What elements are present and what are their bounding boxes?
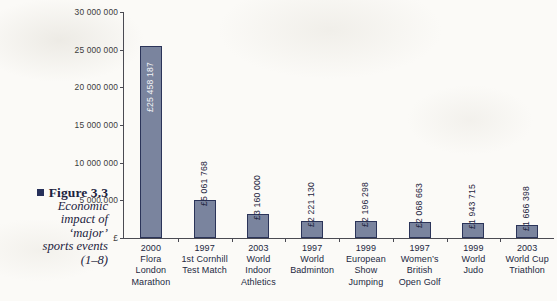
bar-value-label: £25 458 187 xyxy=(145,62,155,112)
y-tick-mark xyxy=(120,238,124,239)
category-name-line: Athletics xyxy=(232,277,286,288)
category-year: 1997 xyxy=(285,243,339,254)
bar-value-label: £2 196 298 xyxy=(360,182,370,227)
category-name-line: London xyxy=(124,265,178,276)
x-category-label: 1997WorldBadminton xyxy=(285,243,339,277)
category-name-line: Test Match xyxy=(178,265,232,276)
x-tick-mark xyxy=(339,238,340,242)
y-tick-mark xyxy=(120,87,124,88)
y-tick-label: £ xyxy=(113,233,118,243)
x-category-label: 1999WorldJudo xyxy=(447,243,501,277)
y-tick-label: 20 000 000 xyxy=(75,82,118,92)
category-year: 1999 xyxy=(447,243,501,254)
y-tick-label: 25 000 000 xyxy=(75,45,118,55)
y-tick-label: 15 000 000 xyxy=(75,120,118,130)
category-name-line: World xyxy=(447,254,501,265)
y-tick-label: 5 000 000 xyxy=(79,195,118,205)
category-name-line: Judo xyxy=(447,265,501,276)
category-name-line: Indoor xyxy=(232,265,286,276)
category-year: 1997 xyxy=(178,243,232,254)
x-category-label: 1997Women’sBritishOpen Golf xyxy=(393,243,447,288)
category-year: 2003 xyxy=(232,243,286,254)
category-name-line: European xyxy=(339,254,393,265)
category-name-line: World xyxy=(285,254,339,265)
x-category-label: 19971st CornhillTest Match xyxy=(178,243,232,277)
bar-value-label: £5 061 768 xyxy=(199,161,209,206)
bar-chart: £5 000 00010 000 00015 000 00020 000 000… xyxy=(0,0,557,301)
y-tick-mark xyxy=(120,50,124,51)
x-tick-mark xyxy=(447,238,448,242)
x-tick-mark xyxy=(393,238,394,242)
category-year: 2003 xyxy=(500,243,554,254)
category-name-line: World Cup xyxy=(500,254,554,265)
category-year: 1999 xyxy=(339,243,393,254)
x-tick-mark xyxy=(285,238,286,242)
y-tick-mark xyxy=(120,163,124,164)
y-tick-label: 30 000 000 xyxy=(75,7,118,17)
bar-value-label: £2 068 663 xyxy=(414,183,424,228)
y-tick-mark xyxy=(120,200,124,201)
category-name-line: British xyxy=(393,265,447,276)
category-year: 2000 xyxy=(124,243,178,254)
y-tick-label: 10 000 000 xyxy=(75,158,118,168)
category-name-line: Marathon xyxy=(124,277,178,288)
x-category-label: 2003WorldIndoorAthletics xyxy=(232,243,286,288)
bar-value-label: £2 221 130 xyxy=(306,182,316,227)
category-year: 1997 xyxy=(393,243,447,254)
x-tick-mark xyxy=(232,238,233,242)
category-name-line: Badminton xyxy=(285,265,339,276)
category-name-line: Jumping xyxy=(339,277,393,288)
y-tick-mark xyxy=(120,125,124,126)
x-category-label: 2000FloraLondonMarathon xyxy=(124,243,178,288)
category-name-line: Triathlon xyxy=(500,265,554,276)
x-category-label: 1999EuropeanShowJumping xyxy=(339,243,393,288)
bar-value-label: £3 160 000 xyxy=(252,175,262,220)
y-tick-mark xyxy=(120,12,124,13)
category-name-line: Open Golf xyxy=(393,277,447,288)
bar-value-label: £1 666 398 xyxy=(521,186,531,231)
bar-value-label: £1 943 715 xyxy=(467,184,477,229)
x-tick-mark xyxy=(178,238,179,242)
x-category-label: 2003World CupTriathlon xyxy=(500,243,554,277)
x-tick-mark xyxy=(500,238,501,242)
category-name-line: World xyxy=(232,254,286,265)
category-name-line: 1st Cornhill xyxy=(178,254,232,265)
category-name-line: Show xyxy=(339,265,393,276)
category-name-line: Women’s xyxy=(393,254,447,265)
category-name-line: Flora xyxy=(124,254,178,265)
